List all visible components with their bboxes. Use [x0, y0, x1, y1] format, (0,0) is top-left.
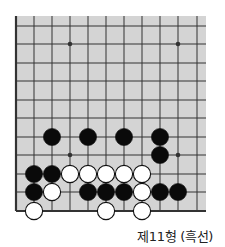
black-stone: [151, 128, 168, 145]
black-stone: [115, 183, 132, 200]
white-stone: [133, 202, 150, 219]
black-stone: [79, 183, 96, 200]
black-stone: [43, 165, 60, 182]
black-stone: [25, 165, 42, 182]
white-stone: [133, 165, 150, 182]
black-stone: [43, 128, 60, 145]
white-stone: [43, 183, 60, 200]
black-stone: [115, 128, 132, 145]
star-point: [176, 42, 181, 47]
black-stone: [169, 183, 186, 200]
white-stone: [61, 165, 78, 182]
white-stone: [79, 165, 96, 182]
go-board: [0, 0, 225, 247]
star-point: [68, 153, 73, 158]
white-stone: [133, 183, 150, 200]
problem-caption: 제11형 (흑선): [137, 226, 213, 245]
black-stone: [97, 183, 114, 200]
white-stone: [115, 165, 132, 182]
white-stone: [97, 165, 114, 182]
white-stone: [97, 202, 114, 219]
black-stone: [79, 128, 96, 145]
black-stone: [151, 146, 168, 163]
white-stone: [25, 202, 42, 219]
black-stone: [151, 183, 168, 200]
star-point: [68, 42, 73, 47]
black-stone: [25, 183, 42, 200]
star-point: [176, 153, 181, 158]
